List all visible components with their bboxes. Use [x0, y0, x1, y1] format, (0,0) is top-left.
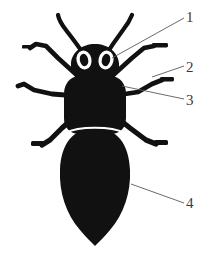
abdomen: [60, 128, 130, 246]
insect-illustration: [0, 0, 213, 255]
callout-label-2: 2: [186, 60, 194, 75]
callout-label-3: 3: [186, 93, 194, 108]
body-group: [60, 44, 130, 246]
tarsus-right-mid: [160, 77, 174, 81]
tarsus-right-fore: [152, 43, 168, 47]
tarsus-left-fore: [22, 45, 32, 49]
leader-line-4: [131, 184, 184, 203]
tarsus-right-hind: [154, 140, 168, 145]
callout-label-4: 4: [186, 196, 194, 211]
tarsus-left-hind: [31, 141, 44, 146]
callout-label-1: 1: [186, 10, 194, 25]
leader-line-2: [152, 66, 184, 77]
leader-line-1: [112, 18, 184, 58]
insect-diagram-figure: 1 2 3 4: [0, 0, 213, 255]
thorax: [64, 76, 126, 134]
